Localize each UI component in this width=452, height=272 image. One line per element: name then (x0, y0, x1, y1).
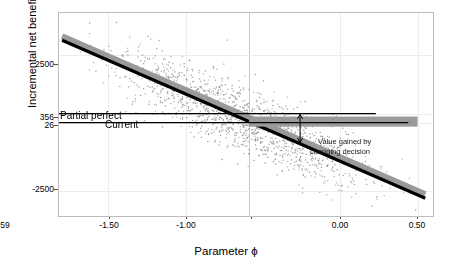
x-tick-label-neg059: -0.59 (0, 220, 10, 230)
x-tick-label-neg100: -1.00 (176, 220, 195, 230)
y-tick-label-26: 26 (45, 121, 54, 130)
current-label: Current (105, 119, 138, 130)
x-tick-label-neg150: -1.50 (99, 220, 118, 230)
y-axis-ticks: 2500 356 26 -2500 (0, 0, 54, 272)
y-tick-label-2500: 2500 (35, 60, 54, 69)
x-tick-label-050: 0.50 (409, 220, 426, 230)
y-tick-label-neg2500: -2500 (32, 185, 54, 194)
x-tick-label-000: 0.00 (332, 220, 349, 230)
expected-value-band (249, 117, 417, 127)
chart-figure: Incremental net benefit 2500 356 26 -250… (0, 0, 452, 272)
x-axis-title: Parameter ϕ (0, 245, 452, 257)
value-gained-annotation-line2: changing decision (310, 147, 370, 156)
value-gained-annotation-line1: Value gained by (318, 137, 371, 146)
